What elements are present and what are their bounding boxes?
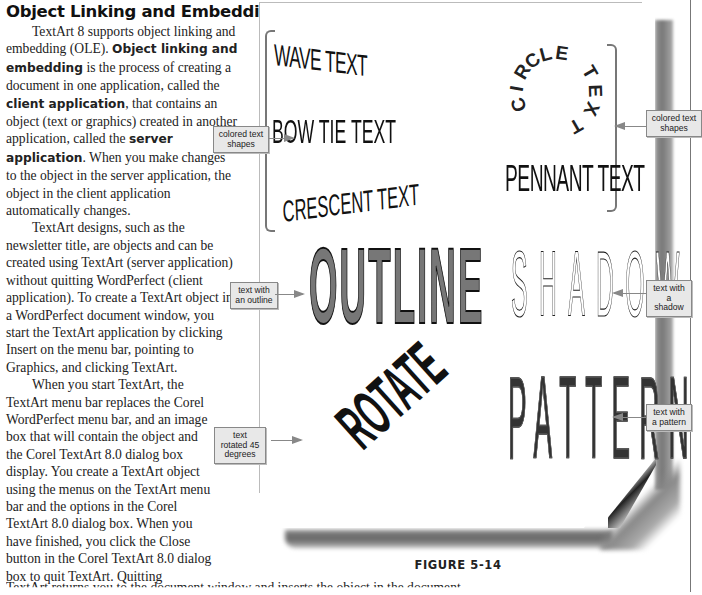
arrow-icon: [616, 126, 646, 127]
sample-pennant-text: PENNANT TEXT: [505, 158, 645, 200]
body-text: TextArt 8 supports object linking and em…: [6, 23, 238, 585]
callout-colored-shapes-left: colored text shapes: [213, 126, 269, 153]
arrow-icon: [614, 293, 646, 294]
arrow-icon: [271, 440, 301, 441]
paragraph-textart-designs: TextArt designs, such as the newsletter …: [6, 219, 238, 376]
section-heading: Object Linking and Embedding: [6, 2, 282, 21]
callout-rotated: text rotated 45 degrees: [214, 427, 266, 464]
paragraph-ole: TextArt 8 supports object linking and em…: [6, 23, 238, 219]
callout-colored-shapes-right: colored text shapes: [646, 110, 702, 137]
figure-caption: FIGURE 5-14: [258, 558, 658, 572]
page-shadow-bottom: [285, 530, 613, 548]
sample-bowtie-text: BOW TIE TEXT: [272, 112, 396, 151]
paragraph-continued: TextArt returns you to the document wind…: [6, 580, 464, 595]
sample-circle-text: C I R C L E T E X T: [506, 42, 606, 142]
arrow-icon: [269, 138, 293, 139]
callout-outline: text with an outline: [230, 282, 278, 309]
callout-shadow: text with a shadow: [646, 280, 692, 317]
callout-pattern: text with a pattern: [646, 404, 692, 431]
sample-outline-text: OUTLINE: [309, 232, 484, 340]
arrow-icon: [275, 294, 303, 295]
arrow-icon: [614, 417, 646, 418]
paragraph-start-textart: When you start TextArt, the TextArt menu…: [6, 376, 212, 585]
term-client-application: client application: [6, 97, 125, 111]
